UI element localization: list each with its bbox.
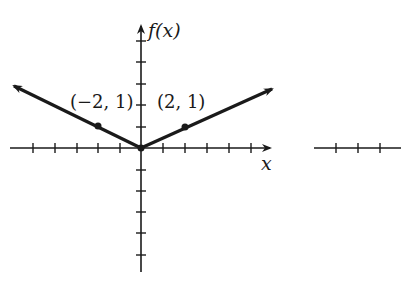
x-axis-label: x <box>261 152 272 174</box>
y-axis-label: f(x) <box>146 19 181 41</box>
point-origin <box>138 145 145 152</box>
function-curve <box>14 86 272 152</box>
point-left-label: (−2, 1) <box>70 91 133 112</box>
point-left <box>95 123 102 130</box>
second-graph-partial <box>314 143 401 153</box>
point-right-label: (2, 1) <box>157 91 205 112</box>
function-graph: f(x) x (−2, 1) (2, 1) <box>0 0 401 285</box>
point-right <box>182 124 189 131</box>
